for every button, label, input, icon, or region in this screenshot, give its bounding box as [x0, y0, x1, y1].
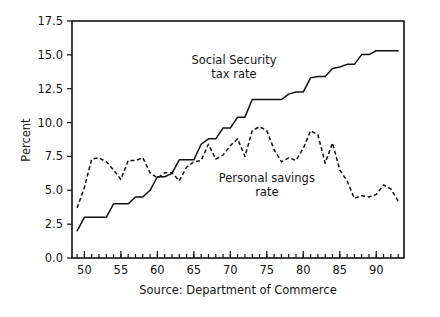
y-tick-label: 5.0 — [45, 183, 63, 197]
x-tick-label: 55 — [114, 263, 129, 277]
y-tick-label: 12.5 — [37, 82, 63, 96]
chart-figure: 0.02.55.07.510.012.515.017.5 50556065707… — [0, 0, 440, 317]
x-axis-tick-labels: 505560657075808590 — [77, 263, 384, 277]
x-tick-label: 80 — [296, 263, 311, 277]
y-tick-label: 7.5 — [45, 149, 63, 163]
y-tick-label: 0.0 — [45, 251, 63, 265]
social-security-label-line2: tax rate — [211, 67, 256, 81]
y-tick-label: 17.5 — [37, 14, 63, 28]
x-tick-label: 50 — [77, 263, 92, 277]
x-tick-label: 70 — [223, 263, 238, 277]
chart-canvas: 0.02.55.07.510.012.515.017.5 50556065707… — [0, 0, 440, 317]
x-tick-label: 65 — [187, 263, 202, 277]
personal-savings-label-line1: Personal savings — [219, 171, 315, 185]
y-tick-label: 10.0 — [37, 116, 63, 130]
x-tick-label: 60 — [150, 263, 165, 277]
y-axis-label: Percent — [19, 118, 33, 162]
source-note: Source: Department of Commerce — [139, 283, 336, 297]
personal-savings-label-line2: rate — [255, 185, 278, 199]
x-tick-label: 90 — [369, 263, 384, 277]
social-security-label-line1: Social Security — [191, 53, 276, 67]
y-tick-label: 2.5 — [45, 217, 63, 231]
x-tick-label: 85 — [332, 263, 347, 277]
x-tick-label: 75 — [260, 263, 275, 277]
y-tick-label: 15.0 — [37, 48, 63, 62]
